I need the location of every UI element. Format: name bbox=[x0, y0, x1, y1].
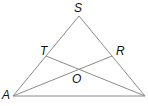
label-a: A bbox=[1, 88, 10, 102]
label-r: R bbox=[116, 44, 125, 58]
label-t: T bbox=[40, 44, 49, 58]
label-o: O bbox=[72, 72, 81, 86]
label-s: S bbox=[74, 1, 82, 15]
segment-tb bbox=[46, 56, 145, 96]
triangle-diagram: S T R O A bbox=[0, 0, 148, 106]
segment-ar bbox=[13, 56, 112, 96]
